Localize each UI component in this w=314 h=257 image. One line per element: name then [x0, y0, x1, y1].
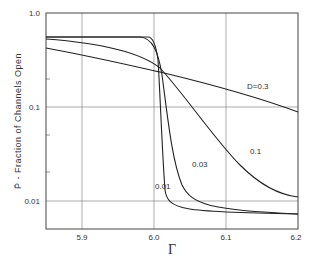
plot-frame: [46, 13, 298, 229]
label-d-0.01: 0.01: [155, 182, 171, 191]
x-tick-6.2: 6.2: [290, 233, 302, 242]
y-tick-0.1: 0.1: [29, 103, 41, 112]
x-tick-6.0: 6.0: [148, 233, 160, 242]
x-tick-6.1: 6.1: [220, 233, 232, 242]
y-tick-1.0: 1.0: [29, 9, 41, 18]
label-d-0.3: D=0.3: [247, 82, 269, 91]
y-axis-label: P̄ - Fraction of Channels Open: [13, 53, 23, 189]
chart: 1.0 0.1 0.01 5.9 6.0 6.1 6.2 Γ P̄ - Frac…: [0, 0, 314, 257]
grid: [46, 13, 298, 229]
curves: [46, 37, 298, 214]
label-d-0.1: 0.1: [250, 147, 262, 156]
x-tick-5.9: 5.9: [76, 233, 88, 242]
curve-d-0.3: [46, 48, 298, 112]
curve-d-0.03: [46, 37, 298, 214]
curve-d-0.01: [46, 37, 298, 214]
curve-d-0.1: [46, 39, 298, 197]
x-axis-label: Γ: [168, 242, 176, 257]
label-d-0.03: 0.03: [192, 160, 208, 169]
y-tick-0.01: 0.01: [24, 197, 40, 206]
